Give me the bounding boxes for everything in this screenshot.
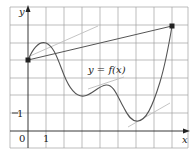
start-point — [26, 58, 31, 63]
x-axis-label: x — [182, 134, 188, 145]
origin-label: 0 — [19, 133, 25, 144]
x-axis-arrow-icon — [183, 129, 190, 134]
y-axis-arrow-icon — [26, 5, 31, 12]
curve-label: y = f(x) — [87, 64, 126, 75]
function-graph: y x 0 1 1 y = f(x) — [0, 0, 192, 155]
axes — [10, 10, 186, 148]
y-tick-1-label: 1 — [17, 108, 23, 119]
tangent-line-3 — [128, 103, 170, 127]
x-tick-1-label: 1 — [43, 133, 49, 144]
y-axis-label: y — [18, 6, 25, 17]
end-point — [170, 24, 175, 29]
tangent-line-2 — [88, 77, 124, 89]
